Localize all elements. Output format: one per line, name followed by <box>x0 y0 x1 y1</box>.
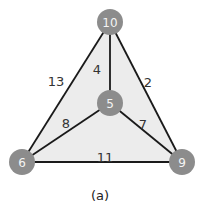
node-center: 5 <box>97 90 123 116</box>
node-label: 9 <box>178 156 186 170</box>
edge-weight-label: 13 <box>48 74 65 89</box>
node-label: 6 <box>18 156 26 170</box>
node-label: 5 <box>106 97 114 111</box>
node-right: 9 <box>169 149 195 175</box>
edge-weight-label: 8 <box>62 116 70 131</box>
edge-weight-label: 4 <box>93 62 101 77</box>
figure-caption: (a) <box>91 188 109 203</box>
edge-weight-label: 2 <box>144 75 152 90</box>
node-top: 10 <box>97 9 123 35</box>
node-left: 6 <box>9 149 35 175</box>
edge-weight-label: 7 <box>139 117 147 132</box>
node-label: 10 <box>102 16 117 30</box>
edge-weight-label: 11 <box>97 150 114 165</box>
triangle-fill <box>22 22 182 162</box>
graph-diagram: 13428711 10569 (a) <box>0 0 201 212</box>
